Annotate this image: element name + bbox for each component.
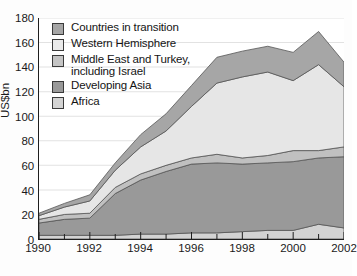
legend-item: Western Hemisphere (52, 38, 242, 51)
y-axis-tick-label: 120 (15, 86, 34, 98)
x-axis-tick-labels: 1990199219941996199820002002 (38, 242, 344, 262)
x-axis-tick-label: 1994 (127, 242, 153, 254)
x-axis-tick-label: 1998 (229, 242, 255, 254)
y-axis-tick-label: 80 (21, 135, 34, 147)
legend-item: Middle East and Turkey,including Israel (52, 54, 242, 78)
y-axis-tick-labels: 020406080100120140160180 (0, 0, 34, 240)
legend-label: Developing Asia (71, 80, 151, 92)
x-axis-tick-label: 1990 (25, 242, 51, 254)
y-axis-tick-label: 100 (15, 111, 34, 123)
legend-item: Countries in transition (52, 22, 242, 35)
x-axis-tick-label: 2002 (331, 242, 357, 254)
legend-item: Developing Asia (52, 80, 242, 93)
legend-label: Countries in transition (71, 22, 179, 34)
y-axis-title: US$bn (0, 83, 11, 118)
legend-label: Middle East and Turkey,including Israel (71, 54, 190, 78)
y-axis-tick-label: 20 (21, 209, 34, 221)
y-axis-tick-label: 140 (15, 61, 34, 73)
legend-swatch (52, 55, 64, 67)
legend-swatch (52, 23, 64, 35)
x-axis-tick-label: 1992 (76, 242, 102, 254)
y-axis-tick-label: 40 (21, 185, 34, 197)
y-axis-tick-label: 160 (15, 37, 34, 49)
legend-swatch (52, 97, 64, 109)
legend-item: Africa (52, 96, 242, 109)
legend-label: Western Hemisphere (71, 38, 176, 50)
legend-swatch (52, 81, 64, 93)
legend-label: Africa (71, 96, 100, 108)
area-band (39, 157, 344, 236)
legend-label-line: including Israel (71, 66, 190, 78)
legend-swatch (52, 39, 64, 51)
y-axis-tick-label: 180 (15, 12, 34, 24)
y-axis-tick-label: 60 (21, 160, 34, 172)
chart-legend: Countries in transitionWestern Hemispher… (52, 22, 242, 112)
x-axis-tick-label: 2000 (280, 242, 306, 254)
x-axis-tick-label: 1996 (178, 242, 204, 254)
